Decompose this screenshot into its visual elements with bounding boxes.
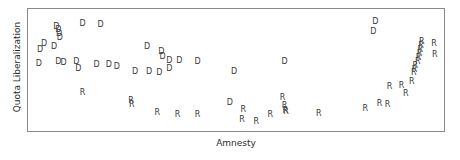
data-point-r: R (154, 109, 160, 117)
data-point-d: D (51, 43, 57, 51)
data-point-d: D (106, 61, 112, 69)
data-point-r: R (239, 116, 245, 124)
data-point-d: D (36, 60, 42, 68)
data-point-r: R (283, 108, 289, 116)
data-point-r: R (419, 38, 425, 46)
data-point-d: D (156, 69, 162, 77)
data-point-d: D (176, 57, 182, 65)
data-point-d: D (75, 65, 81, 73)
data-point-r: R (387, 83, 393, 91)
data-point-d: D (57, 34, 63, 42)
plot-area-frame: DDDDDDDDDDDDDDDDDDDDDDDDDDDDDDDDRRRRRRRR… (27, 8, 445, 132)
y-axis-label: Quota Liberalization (12, 5, 22, 129)
data-point-r: R (385, 101, 391, 109)
data-point-r: R (432, 51, 438, 59)
data-point-d: D (132, 68, 138, 76)
data-point-r: R (403, 90, 409, 98)
data-point-r: R (80, 89, 86, 97)
data-point-r: R (195, 111, 201, 119)
data-point-r: R (362, 105, 368, 113)
data-point-r: R (175, 111, 181, 119)
data-point-d: D (60, 59, 66, 67)
data-point-d: D (94, 61, 100, 69)
x-axis-label: Amnesty (27, 138, 445, 148)
data-point-d: D (166, 65, 172, 73)
data-point-r: R (253, 118, 259, 126)
data-point-d: D (98, 21, 104, 29)
data-point-d: D (146, 68, 152, 76)
data-point-d: D (281, 58, 287, 66)
data-point-r: R (129, 101, 135, 109)
data-point-d: D (37, 46, 43, 54)
data-point-d: D (227, 99, 233, 107)
data-point-d: D (159, 53, 165, 61)
data-point-r: R (409, 78, 415, 86)
scatter-plot-figure: DDDDDDDDDDDDDDDDDDDDDDDDDDDDDDDDRRRRRRRR… (0, 0, 460, 160)
data-point-layer: DDDDDDDDDDDDDDDDDDDDDDDDDDDDDDDDRRRRRRRR… (28, 9, 444, 131)
data-point-r: R (399, 82, 405, 90)
data-point-d: D (231, 68, 237, 76)
data-point-r: R (316, 110, 322, 118)
data-point-r: R (377, 100, 383, 108)
data-point-d: D (144, 43, 150, 51)
data-point-r: R (268, 111, 274, 119)
data-point-r: R (431, 40, 437, 48)
data-point-d: D (372, 18, 378, 26)
data-point-d: D (114, 63, 120, 71)
data-point-d: D (370, 28, 376, 36)
data-point-d: D (79, 20, 85, 28)
data-point-r: R (240, 106, 246, 114)
data-point-d: D (195, 58, 201, 66)
